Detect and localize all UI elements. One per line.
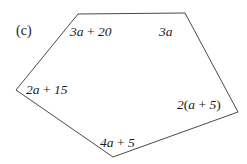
side-label-top-left: 3a + 20 (70, 25, 111, 39)
part-label: (c) (16, 24, 32, 38)
side-label-right: 2(a + 5) (177, 98, 221, 112)
side-label-bottom: 4a + 5 (100, 136, 135, 150)
side-label-left: 2a + 15 (26, 83, 67, 97)
figure-container: (c) 3a + 20 3a 2a + 15 2(a + 5) 4a + 5 (0, 0, 247, 164)
side-label-top-right: 3a (159, 25, 173, 39)
